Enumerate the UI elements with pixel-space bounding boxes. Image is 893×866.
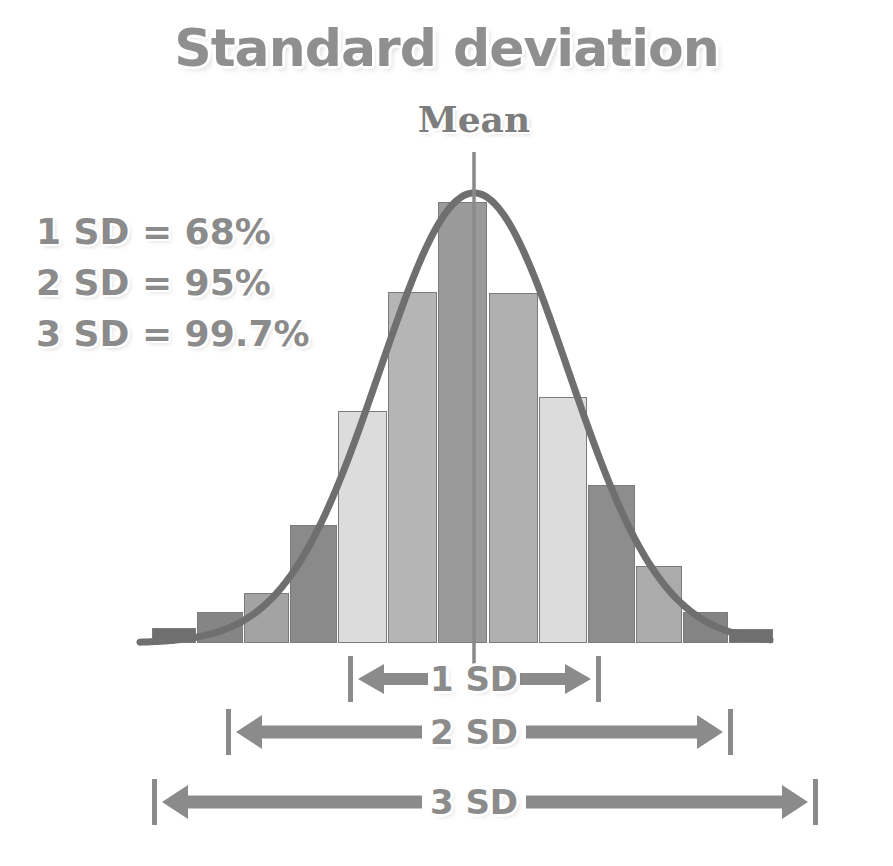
histogram-bar <box>636 566 682 643</box>
histogram-bar <box>539 397 587 643</box>
sd-arrow-left <box>358 664 428 694</box>
sd-arrow-right <box>526 785 808 819</box>
sd-arrow-right <box>520 664 591 694</box>
sd-band-label: 2 SD <box>430 712 518 752</box>
histogram-bar <box>244 593 289 643</box>
sd-band-label: 1 SD <box>430 659 518 699</box>
sd-band-row: 1 SD <box>348 652 601 706</box>
sd-arrow-left <box>162 785 422 819</box>
sd-arrow-right <box>526 715 723 749</box>
histogram-bar <box>152 628 196 643</box>
sd-band-row: 2 SD <box>226 705 733 759</box>
standard-deviation-infographic: Standard deviation Mean 1 SD = 68% 2 SD … <box>0 0 893 866</box>
sd-arrow-left <box>236 715 422 749</box>
histogram-bar <box>489 293 538 643</box>
histogram-bar <box>197 612 243 643</box>
sd-band-row: 3 SD <box>152 775 818 829</box>
histogram-bar <box>683 612 728 643</box>
histogram-bar <box>729 629 773 643</box>
histogram-bar <box>588 485 635 643</box>
histogram-bar <box>438 202 487 643</box>
histogram-bar <box>290 525 337 643</box>
histogram-bar <box>388 292 437 643</box>
histogram-bar <box>338 411 387 643</box>
sd-band-label: 3 SD <box>430 782 518 822</box>
